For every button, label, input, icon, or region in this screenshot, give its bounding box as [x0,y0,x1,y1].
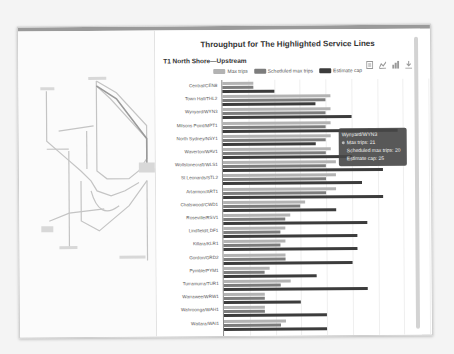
bar-max[interactable] [224,280,291,283]
category-label: Pymble/PYM1 [189,268,218,273]
bar-chart-icon[interactable] [392,55,399,63]
section-title: T1 North Shore—Upstream [163,57,246,65]
bar-sched[interactable] [224,271,265,274]
category-label: Chatswood/CWD1 [180,202,218,207]
line-chart-icon[interactable] [379,55,386,63]
category-label: Waverton/WAV1 [184,149,217,154]
bar-max[interactable] [223,240,285,243]
legend-label: Estimate cap [333,67,362,73]
category-label: Milsons Point/MPT1 [177,123,218,128]
download-icon[interactable] [405,55,412,63]
bar-max[interactable] [223,227,285,230]
legend-label: Scheduled max trips [268,67,313,73]
legend-swatch-icon [254,68,266,73]
legend-label: Max trips [227,68,247,74]
bar-max[interactable] [223,214,290,217]
bar-sched[interactable] [224,284,281,287]
category-label: Lindfield/LDF1 [189,228,219,233]
data-view-icon[interactable] [366,55,373,63]
bar-max[interactable] [224,306,265,309]
bar-max[interactable] [222,82,253,85]
vertical-scrollbar[interactable] [414,37,420,329]
bar-sched[interactable] [223,231,280,234]
bar-group[interactable]: Waitara/WAI1 [223,316,416,336]
bar-max[interactable] [223,200,305,204]
category-label: Warrawee/WRW1 [182,294,219,299]
category-label: Roseville/RSV1 [186,215,218,220]
category-label: North Sydney/NSY1 [177,136,218,141]
category-label: St Leonards/STL2 [181,175,218,180]
grid-line [428,79,431,335]
chart-tooltip: Wynyard/WYN3 Max trips: 21 Scheduled max… [339,128,407,166]
bar-max[interactable] [224,293,265,296]
legend-swatch-icon [319,68,331,73]
tooltip-estimate-cap: Estimate cap: 25 [342,154,404,162]
bar-sched[interactable] [224,310,265,313]
dashboard-frame: Throughput for The Highlighted Service L… [17,24,433,339]
chart-toolbox [366,55,412,63]
chart-title: Throughput for The Highlighted Service L… [155,39,420,50]
bar-chart-plot[interactable]: Central/CEN8Town Hall/THL2Wynyard/WYN3Mi… [221,79,416,336]
tooltip-scheduled-trips: Scheduled max trips: 20 [342,146,404,154]
category-label: Central/CEN8 [189,83,217,88]
bar-sched[interactable] [222,86,253,89]
bar-est[interactable] [224,327,327,331]
bar-sched[interactable] [224,297,265,300]
bar-max[interactable] [224,319,286,322]
bar-sched[interactable] [224,257,286,260]
bar-sched[interactable] [223,218,285,221]
category-label: Wynyard/WYN3 [185,109,218,114]
rail-network-map[interactable] [18,30,156,337]
category-label: Wahroonga/WAH1 [181,307,219,312]
bar-max[interactable] [224,266,270,269]
category-label: Town Hall/THL2 [185,96,217,101]
network-map-panel[interactable] [18,30,157,337]
category-label: Turramurra/TUR1 [183,281,219,286]
bar-sched[interactable] [224,323,281,326]
category-label: Waitara/WAI1 [191,321,219,326]
legend-swatch-icon [213,68,225,73]
category-label: Gordon/GRD2 [189,255,218,260]
bar-max[interactable] [224,253,286,256]
category-label: Killara/KLR1 [193,241,219,246]
bar-sched[interactable] [223,244,280,247]
category-label: Wollstonecraft/WLS1 [175,162,218,167]
bar-sched[interactable] [223,204,300,208]
legend-item[interactable]: Estimate cap [319,67,362,73]
tooltip-max-trips: Max trips: 21 [347,139,376,145]
legend-item[interactable]: Max trips [213,68,247,74]
legend-item[interactable]: Scheduled max trips [254,67,313,73]
chart-panel: Throughput for The Highlighted Service L… [155,29,422,337]
category-label: Artarmon/ART1 [186,189,218,194]
tooltip-marker-icon [342,141,345,144]
chart-legend: Max tripsScheduled max tripsEstimate cap [155,67,420,75]
